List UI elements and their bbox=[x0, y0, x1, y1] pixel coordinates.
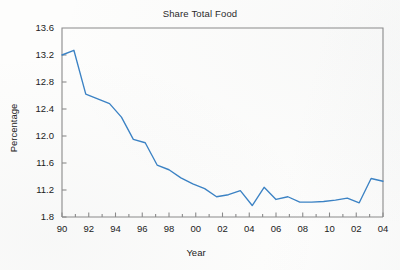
y-tick-label: 12.8 bbox=[36, 76, 55, 87]
y-axis-tick-labels: 13.613.212.812.412.011.611.21.8 bbox=[36, 22, 55, 222]
x-axis-tick-labels: 90929496980002040608100204 bbox=[57, 223, 389, 234]
x-tick-label: 02 bbox=[351, 223, 362, 234]
x-tick-label: 06 bbox=[271, 223, 282, 234]
x-axis-title: Year bbox=[186, 247, 205, 258]
data-series-line bbox=[62, 50, 383, 205]
chart-figure: Share Total Food 13.613.212.812.412.011.… bbox=[0, 0, 400, 270]
x-tick-label: 92 bbox=[83, 223, 94, 234]
y-tick-label: 1.8 bbox=[41, 211, 54, 222]
x-tick-label: 94 bbox=[110, 223, 121, 234]
y-axis-title: Percentage bbox=[8, 104, 19, 153]
x-tick-label: 96 bbox=[137, 223, 148, 234]
y-tick-label: 12.4 bbox=[36, 103, 55, 114]
y-tick-label: 11.6 bbox=[36, 157, 54, 168]
y-tick-label: 12.0 bbox=[36, 130, 55, 141]
y-tick-label: 13.6 bbox=[36, 22, 55, 33]
y-tick-label: 13.2 bbox=[36, 49, 55, 60]
axis-tick-marks bbox=[62, 55, 383, 217]
plot-area: 13.613.212.812.412.011.611.21.8 90929496… bbox=[0, 0, 400, 270]
x-tick-label: 04 bbox=[244, 223, 255, 234]
x-tick-label: 90 bbox=[57, 223, 68, 234]
plot-frame-border bbox=[62, 28, 383, 217]
x-tick-label: 10 bbox=[324, 223, 335, 234]
x-tick-label: 00 bbox=[190, 223, 201, 234]
x-tick-label: 98 bbox=[164, 223, 175, 234]
x-tick-label: 02 bbox=[217, 223, 228, 234]
x-tick-label: 08 bbox=[297, 223, 308, 234]
x-tick-label: 04 bbox=[378, 223, 389, 234]
y-tick-label: 11.2 bbox=[36, 184, 54, 195]
